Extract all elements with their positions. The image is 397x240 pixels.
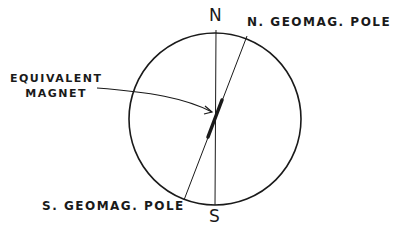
equivalent-magnet-label-line1: EQUIVALENT (10, 71, 102, 86)
n-geomag-pole-label: N. GEOMAG. POLE (247, 15, 391, 29)
north-label: N (209, 5, 222, 25)
equivalent-magnet-label: EQUIVALENT MAGNET (10, 71, 102, 101)
south-label: S (209, 206, 220, 226)
magnet-pointer-arrow (97, 88, 212, 112)
s-geomag-pole-label: S. GEOMAG. POLE (42, 199, 185, 213)
equivalent-magnet-label-line2: MAGNET (10, 86, 102, 101)
